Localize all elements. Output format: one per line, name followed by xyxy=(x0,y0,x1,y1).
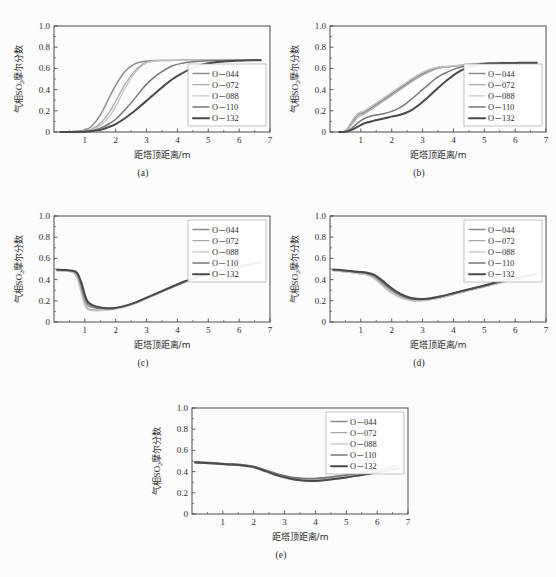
svg-text:O－132: O－132 xyxy=(212,270,239,279)
plot-c: 00.20.40.60.81.01234567距塔顶距离/m气相SO2摩尔分数O… xyxy=(8,204,278,356)
panel-caption-c: (c) xyxy=(8,358,278,368)
plot-a: 00.20.40.60.81.01234567距塔顶距离/m气相SO2摩尔分数O… xyxy=(8,14,278,166)
svg-text:O－110: O－110 xyxy=(488,103,514,112)
svg-text:1: 1 xyxy=(221,517,226,527)
svg-text:O－110: O－110 xyxy=(350,451,376,460)
svg-text:3: 3 xyxy=(144,135,149,145)
svg-text:4: 4 xyxy=(451,325,456,335)
svg-text:1.0: 1.0 xyxy=(315,21,327,31)
svg-text:5: 5 xyxy=(206,325,211,335)
svg-text:O－088: O－088 xyxy=(212,92,239,101)
panel-caption-d: (d) xyxy=(284,358,554,368)
plot-b: 00.20.40.60.81.01234567距塔顶距离/m气相SO2摩尔分数O… xyxy=(284,14,554,166)
svg-text:距塔顶距离/m: 距塔顶距离/m xyxy=(272,531,329,542)
svg-text:O－088: O－088 xyxy=(488,248,515,257)
svg-text:5: 5 xyxy=(206,135,211,145)
svg-text:4: 4 xyxy=(175,135,180,145)
svg-text:6: 6 xyxy=(375,517,380,527)
svg-text:O－132: O－132 xyxy=(488,114,515,123)
svg-text:0.2: 0.2 xyxy=(315,106,326,116)
svg-text:O－088: O－088 xyxy=(212,248,239,257)
svg-text:气相SO2摩尔分数: 气相SO2摩尔分数 xyxy=(289,235,301,304)
svg-text:0.8: 0.8 xyxy=(177,424,189,434)
svg-text:1: 1 xyxy=(83,135,88,145)
svg-text:O－072: O－072 xyxy=(488,81,515,90)
chart-panel-c: 00.20.40.60.81.01234567距塔顶距离/m气相SO2摩尔分数O… xyxy=(8,204,278,374)
svg-text:O－072: O－072 xyxy=(212,81,239,90)
svg-text:3: 3 xyxy=(420,135,425,145)
svg-text:2: 2 xyxy=(389,135,394,145)
svg-text:0.4: 0.4 xyxy=(315,275,327,285)
svg-text:1.0: 1.0 xyxy=(315,211,327,221)
svg-text:O－132: O－132 xyxy=(350,462,377,471)
svg-text:气相SO2摩尔分数: 气相SO2摩尔分数 xyxy=(13,235,25,304)
svg-text:0.2: 0.2 xyxy=(177,488,188,498)
svg-text:0.8: 0.8 xyxy=(315,42,327,52)
svg-text:1: 1 xyxy=(359,135,364,145)
svg-text:0: 0 xyxy=(322,127,327,137)
svg-text:0.8: 0.8 xyxy=(39,42,51,52)
panel-caption-b: (b) xyxy=(284,168,554,178)
svg-text:5: 5 xyxy=(482,325,487,335)
svg-text:1.0: 1.0 xyxy=(39,211,51,221)
svg-text:O－110: O－110 xyxy=(212,103,238,112)
svg-text:7: 7 xyxy=(268,325,273,335)
svg-text:6: 6 xyxy=(237,325,242,335)
svg-text:O－044: O－044 xyxy=(488,70,515,79)
svg-text:0: 0 xyxy=(184,509,189,519)
svg-text:5: 5 xyxy=(344,517,349,527)
svg-text:0.8: 0.8 xyxy=(315,232,327,242)
chart-panel-b: 00.20.40.60.81.01234567距塔顶距离/m气相SO2摩尔分数O… xyxy=(284,14,554,184)
svg-text:0.4: 0.4 xyxy=(39,85,51,95)
svg-text:0.4: 0.4 xyxy=(39,275,51,285)
svg-text:4: 4 xyxy=(175,325,180,335)
svg-text:4: 4 xyxy=(451,135,456,145)
svg-text:0: 0 xyxy=(46,317,51,327)
svg-text:0.4: 0.4 xyxy=(315,85,327,95)
svg-text:O－072: O－072 xyxy=(488,237,515,246)
svg-text:7: 7 xyxy=(268,135,273,145)
svg-text:气相SO2摩尔分数: 气相SO2摩尔分数 xyxy=(13,45,25,114)
svg-text:O－110: O－110 xyxy=(488,259,514,268)
svg-text:O－044: O－044 xyxy=(212,70,239,79)
svg-text:3: 3 xyxy=(144,325,149,335)
svg-text:6: 6 xyxy=(513,325,518,335)
svg-text:2: 2 xyxy=(251,517,256,527)
svg-text:7: 7 xyxy=(544,325,549,335)
svg-text:0.2: 0.2 xyxy=(315,296,326,306)
chart-panel-d: 00.20.40.60.81.01234567距塔顶距离/m气相SO2摩尔分数O… xyxy=(284,204,554,374)
svg-text:0.6: 0.6 xyxy=(39,253,51,263)
svg-text:0: 0 xyxy=(46,127,51,137)
svg-text:距塔顶距离/m: 距塔顶距离/m xyxy=(410,149,467,160)
svg-text:2: 2 xyxy=(113,135,118,145)
panel-caption-e: (e) xyxy=(146,550,416,560)
svg-text:0.6: 0.6 xyxy=(315,253,327,263)
svg-text:3: 3 xyxy=(282,517,287,527)
svg-text:O－132: O－132 xyxy=(212,114,239,123)
svg-text:0: 0 xyxy=(322,317,327,327)
svg-text:2: 2 xyxy=(113,325,118,335)
svg-text:气相SO2摩尔分数: 气相SO2摩尔分数 xyxy=(151,427,163,496)
svg-text:7: 7 xyxy=(406,517,411,527)
svg-text:气相SO2摩尔分数: 气相SO2摩尔分数 xyxy=(289,45,301,114)
svg-text:0.2: 0.2 xyxy=(39,296,50,306)
plot-d: 00.20.40.60.81.01234567距塔顶距离/m气相SO2摩尔分数O… xyxy=(284,204,554,356)
svg-text:0.6: 0.6 xyxy=(315,63,327,73)
svg-text:7: 7 xyxy=(544,135,549,145)
svg-text:6: 6 xyxy=(513,135,518,145)
svg-text:O－044: O－044 xyxy=(488,226,515,235)
svg-text:0.8: 0.8 xyxy=(39,232,51,242)
svg-text:1.0: 1.0 xyxy=(39,21,51,31)
svg-text:O－132: O－132 xyxy=(488,270,515,279)
svg-text:0.4: 0.4 xyxy=(177,467,189,477)
svg-text:O－072: O－072 xyxy=(350,429,377,438)
svg-text:距塔顶距离/m: 距塔顶距离/m xyxy=(134,339,191,350)
svg-text:O－088: O－088 xyxy=(488,92,515,101)
svg-text:O－072: O－072 xyxy=(212,237,239,246)
plot-e: 00.20.40.60.81.01234567距塔顶距离/m气相SO2摩尔分数O… xyxy=(146,396,416,548)
svg-text:O－044: O－044 xyxy=(350,418,377,427)
svg-text:距塔顶距离/m: 距塔顶距离/m xyxy=(134,149,191,160)
svg-text:0.2: 0.2 xyxy=(39,106,50,116)
svg-text:0.6: 0.6 xyxy=(177,445,189,455)
svg-text:2: 2 xyxy=(389,325,394,335)
